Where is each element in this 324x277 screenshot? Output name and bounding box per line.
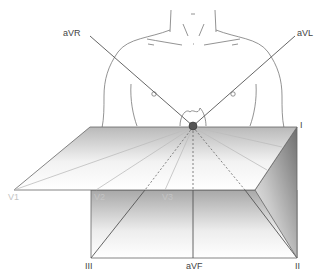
heart-node [189, 122, 197, 130]
ecg-lead-diagram [0, 0, 324, 277]
label-avr: aVR [63, 29, 81, 38]
label-iii: III [85, 262, 93, 271]
torso-outline [102, 10, 284, 128]
label-avf: aVF [186, 262, 203, 271]
label-ii: II [295, 262, 300, 271]
label-v2: V2 [94, 193, 105, 202]
label-v3: V3 [162, 193, 173, 202]
label-v1: V1 [8, 193, 19, 202]
augmented-lead-lines [90, 36, 295, 126]
label-i: I [300, 121, 303, 130]
horizontal-plane [14, 127, 297, 190]
label-avl: aVL [297, 29, 313, 38]
